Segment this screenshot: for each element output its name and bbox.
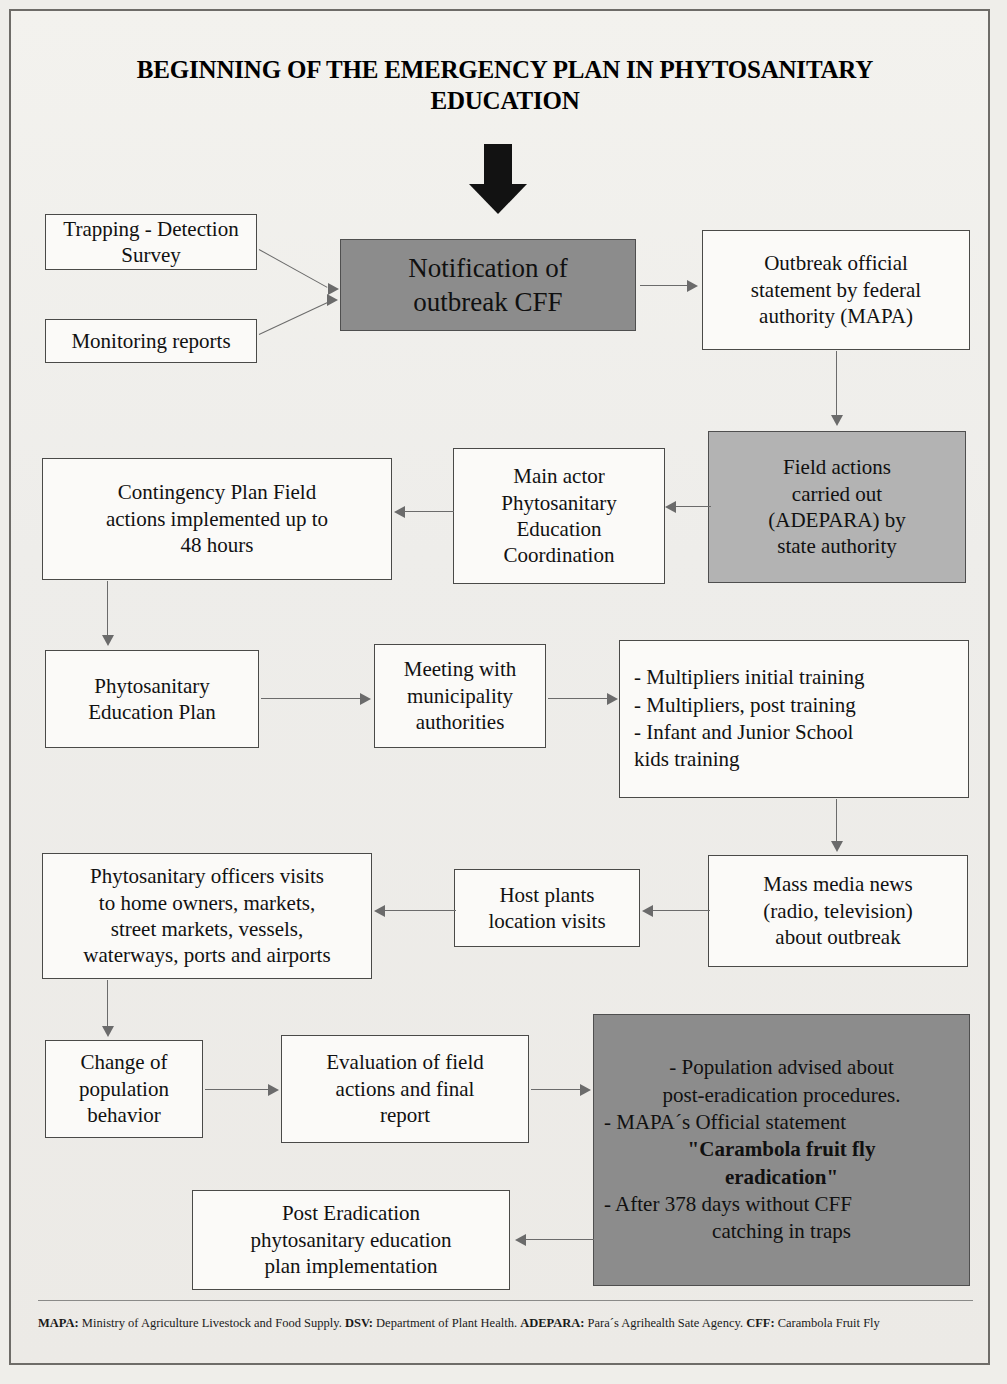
legend-footer: MAPA: Ministry of Agriculture Livestock … <box>38 1316 973 1331</box>
connector-main-actor-to-contingency <box>394 505 454 519</box>
connector-population-advised-to-post-eradication <box>515 1233 595 1247</box>
connector-education-plan-to-meeting <box>261 692 375 706</box>
eradication-quote-line-2: eradication" <box>604 1164 959 1191</box>
node-main-actor-label: Main actor Phytosanitary Education Coord… <box>461 463 657 569</box>
connector-monitoring-to-notification <box>259 290 343 340</box>
node-monitoring-label: Monitoring reports <box>53 328 249 354</box>
connector-training-to-mass-media <box>830 799 844 859</box>
training-line-1: - Multipliers initial training <box>634 664 961 691</box>
start-arrow-icon <box>468 144 528 214</box>
node-population-advised-content: - Population advised about post-eradicat… <box>604 1054 959 1245</box>
node-evaluation-final-report[interactable]: Evaluation of field actions and final re… <box>281 1035 529 1143</box>
node-officers-visits[interactable]: Phytosanitary officers visits to home ow… <box>42 853 372 979</box>
connector-trapping-to-notification <box>259 246 343 292</box>
node-field-actions-label: Field actions carried out (ADEPARA) by s… <box>716 454 958 560</box>
node-post-eradication-label: Post Eradication phytosanitary education… <box>200 1200 502 1279</box>
node-change-of-population-behavior[interactable]: Change of population behavior <box>45 1040 203 1138</box>
node-host-plants-label: Host plants location visits <box>462 882 632 935</box>
legend-cff-text: Carambola Fruit Fly <box>775 1316 880 1330</box>
node-contingency-plan[interactable]: Contingency Plan Field actions implement… <box>42 458 392 580</box>
node-mass-media-label: Mass media news (radio, television) abou… <box>716 871 960 950</box>
node-host-plants-location-visits[interactable]: Host plants location visits <box>454 869 640 947</box>
connector-mass-media-to-host-plants <box>642 904 710 918</box>
legend-mapa-key: MAPA: <box>38 1316 79 1330</box>
node-training-list[interactable]: - Multipliers initial training - Multipl… <box>619 640 969 798</box>
node-post-eradication-plan[interactable]: Post Eradication phytosanitary education… <box>192 1190 510 1290</box>
connector-statement-to-field-actions <box>830 351 844 431</box>
page-title: BEGINNING OF THE EMERGENCY PLAN IN PHYTO… <box>70 55 940 116</box>
node-behavior-label: Change of population behavior <box>53 1049 195 1128</box>
node-monitoring-reports[interactable]: Monitoring reports <box>45 319 257 363</box>
connector-evaluation-to-population-advised <box>531 1083 595 1097</box>
legend-mapa-text: Ministry of Agriculture Livestock and Fo… <box>79 1316 345 1330</box>
footer-divider <box>38 1300 973 1301</box>
connector-behavior-to-evaluation <box>205 1083 283 1097</box>
connector-contingency-to-education-plan <box>101 581 115 653</box>
connector-host-plants-to-officers-visits <box>374 904 456 918</box>
flowchart-canvas: BEGINNING OF THE EMERGENCY PLAN IN PHYTO… <box>0 0 1007 1384</box>
legend-adepara-key: ADEPARA: <box>520 1316 584 1330</box>
legend-dsv-text: Department of Plant Health. <box>373 1316 520 1330</box>
node-education-plan-label: Phytosanitary Education Plan <box>53 673 251 726</box>
node-notification-of-outbreak-cff[interactable]: Notification of outbreak CFF <box>340 239 636 331</box>
population-line-2: post-eradication procedures. <box>604 1082 959 1109</box>
population-line-4: - After 378 days without CFF <box>604 1191 959 1218</box>
population-line-1: - Population advised about <box>604 1054 959 1081</box>
eradication-quote-line-1: "Carambola fruit fly <box>604 1136 959 1163</box>
node-population-advised[interactable]: - Population advised about post-eradicat… <box>593 1014 970 1286</box>
legend-adepara-text: Para´s Agrihealth Sate Agency. <box>584 1316 746 1330</box>
node-meeting-label: Meeting with municipality authorities <box>382 656 538 735</box>
training-line-2: - Multipliers, post training <box>634 692 961 719</box>
node-officers-visits-label: Phytosanitary officers visits to home ow… <box>50 863 364 969</box>
node-trapping-label: Trapping - Detection Survey <box>53 216 249 269</box>
connector-officers-visits-to-behavior <box>101 980 115 1042</box>
node-contingency-label: Contingency Plan Field actions implement… <box>50 479 384 558</box>
node-outbreak-statement-label: Outbreak official statement by federal a… <box>710 250 962 329</box>
training-line-3: - Infant and Junior School <box>634 719 961 746</box>
node-main-actor-coordination[interactable]: Main actor Phytosanitary Education Coord… <box>453 448 665 584</box>
node-phytosanitary-education-plan[interactable]: Phytosanitary Education Plan <box>45 650 259 748</box>
training-line-4: kids training <box>634 746 961 773</box>
node-outbreak-official-statement[interactable]: Outbreak official statement by federal a… <box>702 230 970 350</box>
node-trapping-detection-survey[interactable]: Trapping - Detection Survey <box>45 214 257 270</box>
population-line-5: catching in traps <box>604 1218 959 1245</box>
connector-meeting-to-training <box>548 692 622 706</box>
population-line-3: - MAPA´s Official statement <box>604 1109 959 1136</box>
legend-cff-key: CFF: <box>746 1316 774 1330</box>
node-mass-media-news[interactable]: Mass media news (radio, television) abou… <box>708 855 968 967</box>
connector-field-actions-to-main-actor <box>665 500 711 514</box>
node-evaluation-label: Evaluation of field actions and final re… <box>289 1049 521 1128</box>
node-notification-label: Notification of outbreak CFF <box>348 251 628 319</box>
node-training-lines: - Multipliers initial training - Multipl… <box>634 664 961 773</box>
node-meeting-municipality-authorities[interactable]: Meeting with municipality authorities <box>374 644 546 748</box>
node-field-actions-adepara[interactable]: Field actions carried out (ADEPARA) by s… <box>708 431 966 583</box>
legend-dsv-key: DSV: <box>345 1316 373 1330</box>
connector-notification-to-statement <box>640 279 702 293</box>
